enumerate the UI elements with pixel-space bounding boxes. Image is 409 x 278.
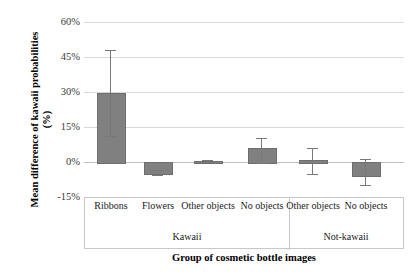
error-bar-cap-lower: [105, 136, 116, 137]
y-tick-label: 45%: [40, 52, 80, 62]
y-tick-label: 0%: [40, 157, 80, 167]
error-bar-cap-lower: [360, 185, 371, 186]
bar: [97, 93, 126, 164]
y-tick-label: 60%: [40, 17, 80, 27]
plot-area: [84, 22, 404, 197]
bar: [144, 162, 173, 175]
gridline: [84, 92, 404, 93]
error-bar-cap-lower: [256, 163, 267, 164]
gridline: [84, 57, 404, 58]
y-tick-label: -15%: [40, 192, 80, 202]
bar: [352, 162, 381, 177]
error-bar-cap-upper: [307, 148, 318, 149]
error-bar-cap-upper: [360, 159, 371, 160]
error-bar-line: [312, 148, 313, 174]
error-bar-cap-upper: [256, 138, 267, 139]
error-bar-cap-upper: [202, 160, 213, 161]
error-bar-cap-upper: [152, 170, 163, 171]
bar: [248, 148, 277, 164]
chart-root: Mean difference of kawaii probabilities …: [0, 0, 409, 278]
bar: [299, 160, 328, 164]
error-bar-cap-lower: [152, 175, 163, 176]
y-tick-label: 30%: [40, 87, 80, 97]
x-group-label: Not-kawaii: [289, 231, 403, 242]
gridline: [84, 22, 404, 23]
x-axis-title: Group of cosmetic bottle images: [84, 252, 404, 263]
category-label-box: RibbonsFlowersOther objectsNo objectsOth…: [84, 197, 404, 249]
error-bar-cap-lower: [202, 162, 213, 163]
error-bar-cap-lower: [307, 174, 318, 175]
gridline: [84, 127, 404, 128]
error-bar-line: [261, 138, 262, 164]
error-bar-cap-upper: [105, 50, 116, 51]
error-bar-line: [365, 159, 366, 186]
error-bar-line: [110, 50, 111, 136]
x-group-label: Kawaii: [85, 231, 289, 242]
x-category-label: No objects: [334, 200, 398, 211]
y-tick-label: 15%: [40, 122, 80, 132]
y-axis-ticks: 60%45%30%15%0%-15%: [38, 0, 80, 278]
